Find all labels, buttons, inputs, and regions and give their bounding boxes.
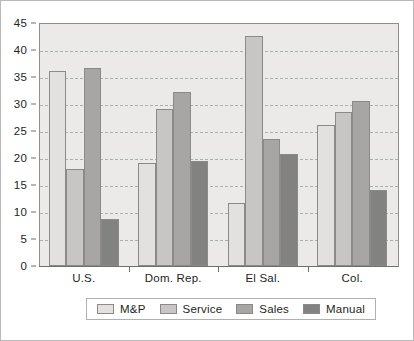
bar-col-mp (317, 125, 335, 266)
y-tick-label: 40 (14, 44, 27, 56)
bar-us-manual (101, 219, 119, 266)
bar-elsal-mp (228, 203, 246, 266)
bar-col-service (335, 112, 353, 266)
legend-item-sales[interactable]: Sales (236, 303, 289, 315)
bar-col-manual (370, 190, 388, 266)
y-tick-label: 10 (14, 206, 27, 218)
bar-domrep-sales (173, 92, 191, 266)
legend-label: M&P (120, 303, 146, 315)
y-tick-label: 20 (14, 152, 27, 164)
bar-elsal-sales (263, 139, 281, 266)
legend-swatch-icon (236, 304, 253, 314)
y-tick-mark (31, 77, 36, 78)
y-axis: 051015202530354045 (1, 23, 35, 266)
x-group-label: El Sal. (245, 272, 280, 284)
y-tick-mark (31, 104, 36, 105)
y-tick-mark (31, 158, 36, 159)
y-tick-mark (31, 50, 36, 51)
bar-col-sales (352, 101, 370, 266)
legend-label: Service (183, 303, 223, 315)
y-tick-mark (31, 239, 36, 240)
x-group-label: Col. (342, 272, 363, 284)
bar-elsal-manual (280, 154, 298, 266)
y-tick-label: 0 (20, 260, 27, 272)
y-tick-label: 45 (14, 17, 27, 29)
legend-item-manual[interactable]: Manual (303, 303, 365, 315)
bar-elsal-service (245, 36, 263, 266)
legend-label: Sales (259, 303, 289, 315)
y-tick-mark (31, 131, 36, 132)
legend-swatch-icon (303, 304, 320, 314)
x-axis: U.S.Dom. Rep.El Sal.Col. (39, 272, 397, 290)
y-tick-mark (31, 266, 36, 267)
legend-label: Manual (326, 303, 365, 315)
bars-layer (39, 23, 397, 266)
bar-us-sales (84, 68, 102, 266)
bar-domrep-mp (138, 163, 156, 266)
legend-swatch-icon (97, 304, 114, 314)
x-tick-mark (218, 266, 219, 272)
bar-domrep-manual (191, 161, 209, 266)
x-group-label: Dom. Rep. (145, 272, 202, 284)
y-tick-mark (31, 212, 36, 213)
y-tick-label: 15 (14, 179, 27, 191)
chart-container: 051015202530354045 U.S.Dom. Rep.El Sal.C… (0, 0, 414, 341)
bar-domrep-service (156, 109, 174, 266)
legend-swatch-icon (160, 304, 177, 314)
y-tick-label: 5 (20, 233, 27, 245)
bar-us-mp (49, 71, 67, 266)
legend: M&PServiceSalesManual (86, 298, 376, 320)
x-tick-mark (129, 266, 130, 272)
x-group-label: U.S. (72, 272, 95, 284)
y-tick-label: 25 (14, 125, 27, 137)
bar-us-service (66, 169, 84, 266)
y-tick-mark (31, 23, 36, 24)
legend-item-mp[interactable]: M&P (97, 303, 146, 315)
legend-item-service[interactable]: Service (160, 303, 223, 315)
y-tick-mark (31, 185, 36, 186)
y-tick-label: 30 (14, 98, 27, 110)
x-tick-mark (308, 266, 309, 272)
y-tick-label: 35 (14, 71, 27, 83)
